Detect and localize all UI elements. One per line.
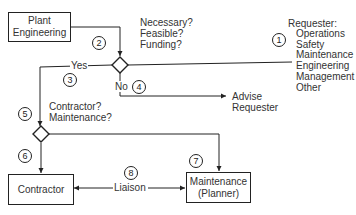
maintenance-planner-box: Maintenance (Planner) [186,172,251,203]
requester-item: Other [296,83,354,94]
question-contractor: Contractor? [49,101,112,112]
plant-engineering-label-2: Engineering [13,27,66,39]
contractor-box: Contractor [8,174,74,205]
plant-engineering-box: Plant Engineering [8,12,71,42]
question-necessary: Necessary? [140,17,193,28]
decision-diamond-2 [33,126,49,142]
step-5-badge: 5 [18,107,32,121]
requester-list: Operations Safety Maintenance Engineerin… [296,29,354,93]
requester-item: Management [296,72,354,83]
decision2-questions: Contractor? Maintenance? [49,101,112,123]
step-8-badge: 8 [124,166,138,180]
yes-label: Yes [70,60,88,71]
step-7-badge: 7 [189,154,203,168]
plant-engineering-label-1: Plant [13,15,66,27]
step-2-badge: 2 [92,36,106,50]
contractor-label: Contractor [18,184,65,196]
step-3-badge: 3 [63,73,77,87]
advise-label: Advise [232,91,278,102]
requester-label: Requester [232,102,278,113]
decision-diamond-1 [112,57,128,73]
step-1-badge: 1 [272,33,286,47]
advise-requester: Advise Requester [232,91,278,113]
question-feasible: Feasible? [140,28,193,39]
no-label: No [114,81,129,92]
step-4-badge: 4 [132,80,146,94]
decision1-questions: Necessary? Feasible? Funding? [140,17,193,50]
planner-label: (Planner) [190,188,247,200]
step-6-badge: 6 [18,149,32,163]
question-maintenance: Maintenance? [49,112,112,123]
maintenance-label: Maintenance [190,176,247,188]
question-funding: Funding? [140,39,193,50]
liaison-label: Liaison [113,182,147,193]
